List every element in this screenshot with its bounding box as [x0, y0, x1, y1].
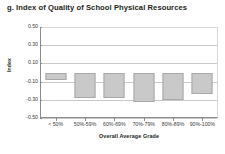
x-axis-tick-label: 90%-100%: [190, 121, 215, 127]
y-axis-tick-mark: [40, 100, 42, 101]
x-axis-title: Overall Average Grade: [40, 133, 218, 139]
y-axis-tick-label: 0.30: [6, 43, 38, 48]
bar: [192, 73, 213, 95]
bar-slot: [129, 28, 158, 117]
y-axis-tick-mark: [40, 45, 42, 46]
bar-slot: [70, 28, 99, 117]
chart-title: g. Index of Quality of School Physical R…: [7, 3, 187, 12]
x-axis-tick-label: 60%-69%: [103, 121, 126, 127]
bar: [45, 73, 66, 80]
y-axis-tick-mark: [40, 118, 42, 119]
bar-series: [41, 28, 217, 117]
bar: [162, 73, 183, 100]
x-axis-tick-label: 70%-79%: [132, 121, 155, 127]
y-axis-tick-label: 0.50: [6, 24, 38, 29]
chart-figure: g. Index of Quality of School Physical R…: [0, 0, 225, 154]
y-axis-tick-label: -0.50: [6, 115, 38, 120]
y-axis-tick-label: 0.10: [6, 61, 38, 66]
bar-slot: [188, 28, 217, 117]
x-axis-tick-label: 80%-89%: [162, 121, 185, 127]
bar-slot: [100, 28, 129, 117]
bar-slot: [41, 28, 70, 117]
y-axis-tick-label: -0.30: [6, 97, 38, 102]
y-axis-tick-label: -0.10: [6, 79, 38, 84]
y-axis-tick-mark: [40, 63, 42, 64]
gridline: [41, 118, 217, 119]
x-axis-tick-label: 50%-59%: [74, 121, 97, 127]
x-axis-tick-label: < 50%: [48, 121, 63, 127]
bar: [104, 73, 125, 98]
y-axis-tick-labels: 0.500.300.10-0.10-0.30-0.50: [4, 27, 38, 118]
y-axis-tick-mark: [40, 82, 42, 83]
bar: [133, 73, 154, 102]
bar: [74, 73, 95, 98]
bar-slot: [158, 28, 187, 117]
y-axis-tick-mark: [40, 27, 42, 28]
